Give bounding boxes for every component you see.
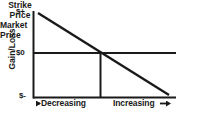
chart-canvas [0, 0, 204, 132]
y-tick-label-negative: $- [19, 91, 26, 100]
payoff-chart: Gain/Loss $+ $0 $- Decreasing Increasing… [0, 0, 204, 132]
y-tick-label-positive: $+ [16, 7, 25, 16]
y-tick-label-zero: $0 [16, 48, 25, 57]
decreasing-label: Decreasing [41, 99, 86, 108]
increasing-label: Increasing [113, 99, 155, 108]
